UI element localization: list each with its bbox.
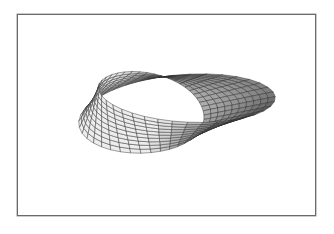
surface-grid-cell — [140, 149, 151, 153]
surface-grid-cell — [185, 125, 201, 128]
figure-canvas — [0, 0, 334, 234]
mobius-surface-plot — [0, 0, 334, 234]
surface-grid-cell — [139, 145, 150, 149]
surface-grid-cell — [172, 121, 187, 125]
surface-grid-cell — [148, 138, 159, 142]
surface-grid-cell — [171, 130, 184, 133]
surface-grid-cell — [187, 122, 203, 125]
surface-grid-cell — [149, 142, 160, 146]
surface-grid-cell — [159, 135, 171, 138]
